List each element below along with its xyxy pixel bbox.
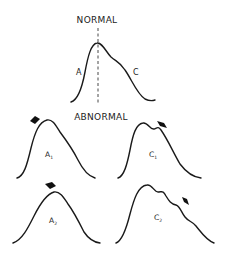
label-a1: A1 [45, 150, 53, 160]
label-c1: C1 [149, 150, 157, 160]
normal-heading: NORMAL [77, 15, 118, 25]
arrow-icon-a1 [30, 116, 40, 124]
arrow-icon-c1 [157, 121, 167, 128]
abnormal-heading: ABNORMAL [74, 112, 128, 122]
waveform-a1 [17, 120, 95, 178]
label-a2: A2 [49, 216, 57, 226]
label-c2: C2 [154, 213, 162, 223]
waveform-a2 [13, 192, 100, 243]
waveform-c1 [118, 123, 201, 178]
arrow-icon-a2 [45, 182, 56, 189]
arrow-icon-c2 [182, 197, 189, 205]
normal-label-a: A [76, 68, 82, 77]
normal-label-c: C [133, 68, 139, 77]
normal-waveform [71, 43, 155, 102]
waveform-diagram: NORMAL A C ABNORMAL A1 C1 A2 C2 [0, 0, 225, 257]
waveform-c2 [116, 185, 214, 243]
